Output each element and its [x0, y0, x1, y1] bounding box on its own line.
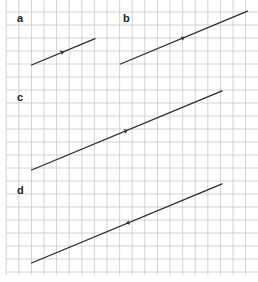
label-a: a [17, 12, 24, 24]
vector-segments [32, 11, 248, 263]
square-grid [6, 0, 258, 275]
label-b: b [123, 12, 130, 24]
label-d: d [17, 184, 24, 196]
vector-diagram: a b c d [0, 0, 258, 282]
label-c: c [17, 91, 23, 103]
